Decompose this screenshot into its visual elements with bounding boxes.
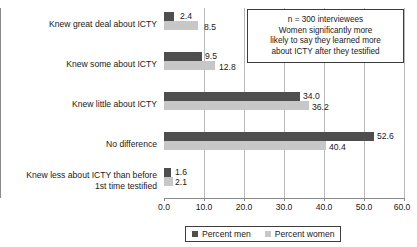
bar-women <box>164 61 215 70</box>
x-tick-label: 50.0 <box>347 202 381 212</box>
bar-women <box>164 101 309 110</box>
bar-men <box>164 12 174 21</box>
category-label: Knew less about ICTY than before 1st tim… <box>0 170 157 191</box>
bar-value-women: 40.4 <box>329 143 346 152</box>
category-label: No difference <box>0 139 157 150</box>
bar-women <box>164 21 198 30</box>
x-tick-label: 40.0 <box>307 202 341 212</box>
bar-women <box>164 141 326 150</box>
bar-value-women: 12.8 <box>219 63 236 72</box>
x-tick-mark <box>324 198 325 201</box>
annotation-line: likely to say they learned more <box>252 36 399 47</box>
annotation-textbox: n = 300 interviewees Women significantly… <box>247 9 404 63</box>
bar-value-men: 9.5 <box>205 52 217 61</box>
chart-legend: Percent men Percent women <box>185 226 341 242</box>
bar-women <box>164 177 173 186</box>
legend-swatch-icon <box>265 231 271 237</box>
bar-men <box>164 132 374 141</box>
x-tick-label: 30.0 <box>267 202 301 212</box>
bar-men <box>164 52 202 61</box>
legend-label-women: Percent women <box>275 229 335 239</box>
bar-value-women: 36.2 <box>312 103 329 112</box>
bar-men <box>164 168 171 177</box>
x-tick-label: 20.0 <box>227 202 261 212</box>
annotation-line: n = 300 interviewees <box>252 15 399 26</box>
category-label: Knew great deal about ICTY <box>0 19 157 30</box>
x-tick-mark <box>164 198 165 201</box>
legend-label-men: Percent men <box>202 229 251 239</box>
bar-value-men: 2.4 <box>180 12 192 21</box>
x-tick-mark <box>204 198 205 201</box>
legend-item-women: Percent women <box>265 229 335 239</box>
category-label: Knew little about ICTY <box>0 99 157 110</box>
bar-men <box>164 92 300 101</box>
chart-row: Knew little about ICTY 34.0 36.2 <box>0 92 417 130</box>
bar-value-women: 2.1 <box>175 178 187 187</box>
legend-item-men: Percent men <box>192 229 251 239</box>
bar-chart: Knew great deal about ICTY 2.4 8.5 Knew … <box>0 0 417 247</box>
bar-value-men: 1.6 <box>175 168 187 177</box>
x-tick-mark <box>364 198 365 201</box>
annotation-line: Women significantly more <box>252 26 399 37</box>
annotation-line: about ICTY after they testified <box>252 47 399 58</box>
chart-row: No difference 52.6 40.4 <box>0 132 417 170</box>
legend-swatch-icon <box>192 231 198 237</box>
bar-value-women: 8.5 <box>204 23 216 32</box>
chart-row: Knew less about ICTY than before 1st tim… <box>0 168 417 206</box>
x-tick-label: 0.0 <box>147 202 181 212</box>
bar-value-men: 52.6 <box>377 132 394 141</box>
x-tick-mark <box>244 198 245 201</box>
x-tick-label: 10.0 <box>187 202 221 212</box>
category-label: Knew some about ICTY <box>0 59 157 70</box>
x-tick-mark <box>404 198 405 201</box>
bar-value-men: 34.0 <box>303 92 320 101</box>
x-tick-label: 60.0 <box>385 202 417 212</box>
x-tick-mark <box>284 198 285 201</box>
